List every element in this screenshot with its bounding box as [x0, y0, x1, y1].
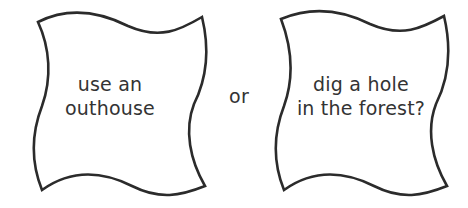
right-card-line-2: in the forest? — [288, 96, 434, 120]
left-card-line-2: outhouse — [58, 96, 162, 120]
diagram-canvas: use an outhouse or dig a hole in the for… — [0, 0, 468, 208]
right-card-text: dig a hole in the forest? — [288, 72, 434, 120]
left-card-line-1: use an — [58, 72, 162, 96]
left-card-text: use an outhouse — [58, 72, 162, 120]
connector-text: or — [224, 84, 254, 108]
right-card-line-1: dig a hole — [288, 72, 434, 96]
